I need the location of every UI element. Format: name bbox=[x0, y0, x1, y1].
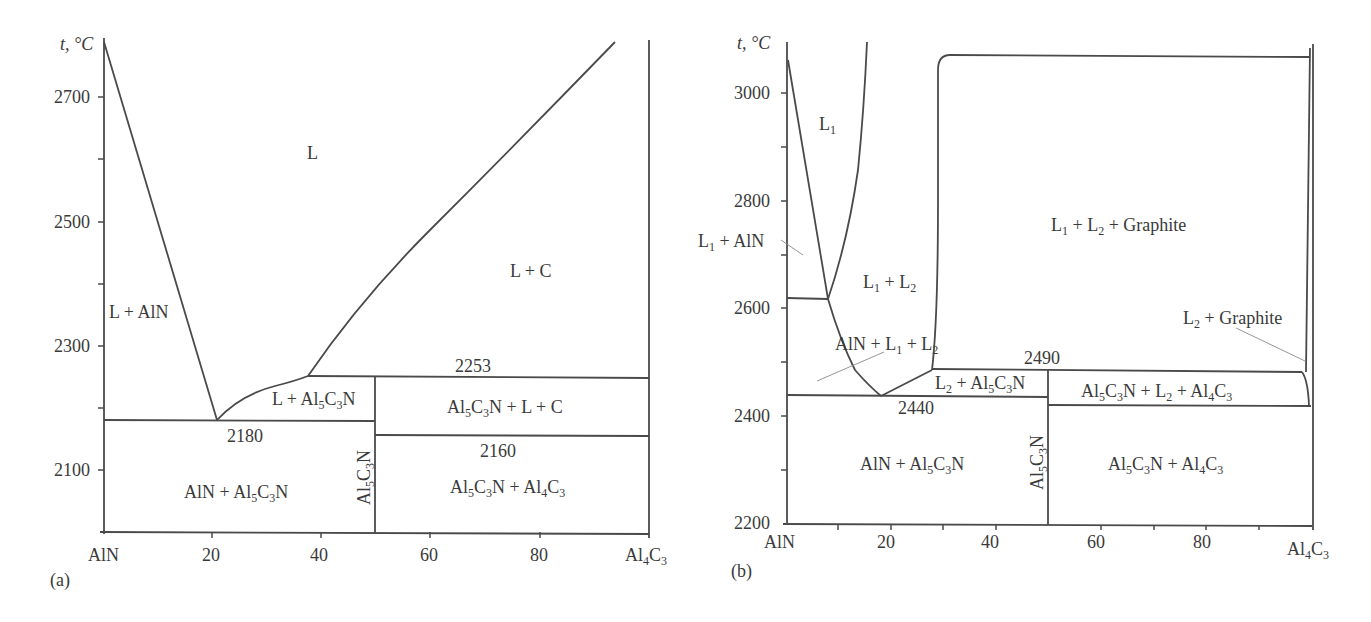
y-tick-label: 2200 bbox=[734, 513, 770, 533]
y-axis-label: t, °C bbox=[737, 33, 771, 53]
eutectic-line-2180 bbox=[104, 420, 375, 421]
phase-diagrams: t, °C 2700 2500 2300 2100 AlN 20 40 60 8… bbox=[0, 0, 1371, 622]
graphite-solubility-line bbox=[1306, 48, 1310, 372]
panel-a: t, °C 2700 2500 2300 2100 AlN 20 40 60 8… bbox=[50, 34, 667, 591]
y-tick-label: 2100 bbox=[54, 460, 90, 480]
region-L-C: L + C bbox=[510, 261, 551, 281]
L2-Al5C3N-liquidus bbox=[881, 370, 932, 396]
region-L-Al5C3N: L + Al5C3N bbox=[272, 389, 356, 412]
invariant-line-Al4C3 bbox=[1048, 405, 1311, 406]
y-axis-label: t, °C bbox=[60, 34, 94, 54]
region-L1: L1 bbox=[819, 114, 836, 137]
compound-label-Al5C3N: Al5C3N bbox=[354, 450, 377, 505]
panel-label-a: (a) bbox=[50, 570, 70, 591]
panel-b: t, °C 3000 2800 2600 2400 2200 AlN 20 40… bbox=[698, 33, 1329, 582]
region-L1-L2-graphite: L1 + L2 + Graphite bbox=[1051, 215, 1186, 238]
liquidus-AlN bbox=[104, 42, 217, 420]
region-L1-L2: L1 + L2 bbox=[863, 272, 916, 295]
x-tick-label: 80 bbox=[530, 545, 548, 565]
graphite-bend bbox=[1302, 372, 1309, 406]
region-Al5C3N-L2-Al4C3: Al5C3N + L2 + Al4C3 bbox=[1081, 381, 1232, 404]
x-tick-label-AlN: AlN bbox=[764, 532, 795, 552]
y-tick-label: 2300 bbox=[54, 336, 90, 356]
liquidus-AlN-L1 bbox=[788, 60, 828, 299]
region-Al5C3N-L-C: Al5C3N + L + C bbox=[447, 397, 563, 420]
x-tick-label: 40 bbox=[981, 532, 999, 552]
x-tick-label: 60 bbox=[420, 545, 438, 565]
region-AlN-Al5C3N: AlN + Al5C3N bbox=[184, 482, 288, 505]
x-tick-label: 20 bbox=[877, 532, 895, 552]
leader-L1-AlN bbox=[781, 240, 803, 255]
invariant-temp-2160: 2160 bbox=[480, 441, 516, 461]
y-tick-label: 2800 bbox=[734, 191, 770, 211]
region-Al5C3N-Al4C3: Al5C3N + Al4C3 bbox=[450, 477, 565, 500]
invariant-line-2490 bbox=[932, 369, 1302, 372]
region-L1-AlN: L1 + AlN bbox=[698, 231, 764, 254]
x-tick-label: 80 bbox=[1193, 532, 1211, 552]
region-Al5C3N-Al4C3: Al5C3N + Al4C3 bbox=[1108, 454, 1223, 477]
invariant-temp-2180: 2180 bbox=[227, 426, 263, 446]
invariant-temp-2253: 2253 bbox=[455, 356, 491, 376]
region-L2-graphite: L2 + Graphite bbox=[1183, 308, 1282, 331]
region-L: L bbox=[307, 143, 318, 163]
invariant-line-2160 bbox=[375, 435, 649, 436]
region-L2-Al5C3N: L2 + Al5C3N bbox=[935, 373, 1025, 396]
invariant-temp-2440: 2440 bbox=[898, 398, 934, 418]
y-tick-label: 2500 bbox=[54, 212, 90, 232]
leader-AlN-L1-L2 bbox=[817, 352, 884, 381]
x-tick-label-Al4C3: Al4C3 bbox=[625, 545, 667, 568]
x-tick-label: 20 bbox=[202, 545, 220, 565]
y-tick-label: 2700 bbox=[54, 87, 90, 107]
leader-L2-graphite bbox=[1236, 328, 1305, 361]
peritectic-line-2253 bbox=[308, 376, 649, 378]
x-tick-label: 40 bbox=[310, 545, 328, 565]
invariant-temp-2490: 2490 bbox=[1024, 348, 1060, 368]
region-AlN-Al5C3N: AlN + Al5C3N bbox=[860, 454, 964, 477]
y-tick-label: 2600 bbox=[734, 298, 770, 318]
x-tick-label-Al4C3: Al4C3 bbox=[1287, 539, 1329, 562]
panel-label-b: (b) bbox=[731, 561, 752, 582]
region-L-AlN: L + AlN bbox=[109, 302, 168, 322]
x-tick-label: 60 bbox=[1087, 532, 1105, 552]
y-tick-label: 3000 bbox=[734, 83, 770, 103]
monotectic-line bbox=[787, 298, 828, 299]
liquidus-C bbox=[308, 42, 615, 376]
x-tick-label-AlN: AlN bbox=[88, 545, 119, 565]
compound-label-Al5C3N: Al5C3N bbox=[1027, 435, 1050, 490]
y-tick-label: 2400 bbox=[734, 406, 770, 426]
region-AlN-L1-L2: AlN + L1 + L2 bbox=[835, 334, 938, 357]
miscibility-gap-right bbox=[828, 42, 867, 299]
